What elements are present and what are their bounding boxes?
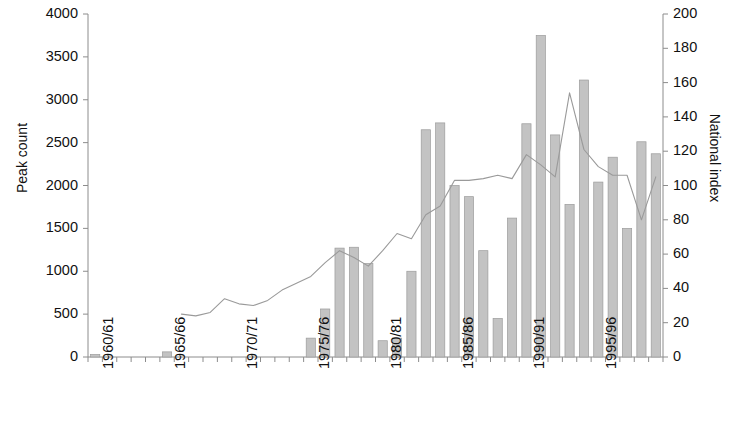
bar-rect — [493, 318, 502, 357]
bar-rect — [436, 123, 445, 357]
y-axis-right-tick-label: 60 — [673, 246, 689, 261]
y-axis-left-tick-label: 1500 — [0, 220, 78, 235]
y-axis-right-tick-label: 120 — [673, 143, 697, 158]
bar — [436, 123, 445, 357]
y-axis-right-tick-label: 40 — [673, 280, 689, 295]
bar — [536, 35, 545, 357]
plot-area — [0, 0, 732, 436]
y-axis-right-tick-label: 160 — [673, 75, 697, 90]
x-axis-tick-label: 1960/61 — [101, 317, 116, 369]
y-axis-left-tick-label: 0 — [0, 349, 78, 364]
bar — [565, 204, 574, 357]
bar-rect — [565, 204, 574, 357]
bar-rect — [91, 354, 100, 357]
bar — [407, 271, 416, 357]
bar — [579, 80, 588, 357]
bar-rect — [407, 271, 416, 357]
y-axis-left-tick-label: 3000 — [0, 92, 78, 107]
y-axis-left-tick-label: 500 — [0, 306, 78, 321]
y-axis-right-tick-label: 20 — [673, 315, 689, 330]
bar-rect — [162, 352, 171, 357]
bar-rect — [522, 124, 531, 357]
bar — [162, 352, 171, 357]
y-axis-left-tick-label: 3500 — [0, 49, 78, 64]
x-axis-tick-label: 1975/76 — [317, 317, 332, 369]
chart-root: Peak count National index 05001000150020… — [0, 0, 732, 436]
bar-rect — [651, 154, 660, 357]
y-axis-left-tick-label: 2500 — [0, 135, 78, 150]
bar-rect — [594, 182, 603, 357]
y-axis-right-tick-label: 140 — [673, 109, 697, 124]
bar-rect — [551, 135, 560, 357]
bar — [450, 186, 459, 358]
bar-rect — [622, 228, 631, 357]
bar — [306, 338, 315, 357]
bar-rect — [507, 218, 516, 357]
bar-rect — [536, 35, 545, 357]
x-axis-tick-label: 1990/91 — [532, 317, 547, 369]
bar — [651, 154, 660, 357]
y-axis-right-tick-label: 200 — [673, 6, 697, 21]
y-axis-right-tick-label: 80 — [673, 212, 689, 227]
bar-rect — [479, 251, 488, 357]
bar — [349, 247, 358, 357]
bar — [522, 124, 531, 357]
y-axis-right-tick-label: 100 — [673, 178, 697, 193]
bar — [622, 228, 631, 357]
bar-rect — [306, 338, 315, 357]
bar — [364, 264, 373, 357]
bar-rect — [637, 142, 646, 357]
bar — [91, 354, 100, 357]
bar — [421, 130, 430, 357]
bar-rect — [349, 247, 358, 357]
x-axis-tick-label: 1970/71 — [245, 317, 260, 369]
x-axis-tick-label: 1965/66 — [173, 317, 188, 369]
y-axis-left-tick-label: 2000 — [0, 178, 78, 193]
bar — [551, 135, 560, 357]
y-axis-right-tick-label: 180 — [673, 40, 697, 55]
y-axis-left-tick-label: 1000 — [0, 263, 78, 278]
bar — [637, 142, 646, 357]
bar — [479, 251, 488, 357]
x-axis-tick-label: 1995/96 — [604, 317, 619, 369]
bar-rect — [378, 341, 387, 357]
bar — [507, 218, 516, 357]
bar — [594, 182, 603, 357]
bar — [493, 318, 502, 357]
y-axis-right-tick-label: 0 — [673, 349, 681, 364]
x-axis-tick-label: 1980/81 — [389, 317, 404, 369]
bar-rect — [335, 248, 344, 357]
y-axis-left-tick-label: 4000 — [0, 6, 78, 21]
bar — [378, 341, 387, 357]
x-axis-tick-label: 1985/86 — [461, 317, 476, 369]
bar-rect — [579, 80, 588, 357]
bar-rect — [364, 264, 373, 357]
bar — [335, 248, 344, 357]
bar-rect — [450, 186, 459, 358]
bar-rect — [421, 130, 430, 357]
